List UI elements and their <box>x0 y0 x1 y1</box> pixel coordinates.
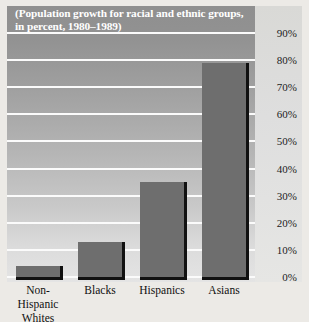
chart-title: (Population growth for racial and ethnic… <box>15 7 247 32</box>
plot-area: 0%10%20%30%40%50%60%70%80%90% (Populatio… <box>7 6 302 282</box>
bar <box>202 63 249 277</box>
y-tick-label: 60% <box>277 108 297 120</box>
title-band: (Population growth for racial and ethnic… <box>7 6 302 33</box>
x-category-label: Non-Hispanic Whites <box>7 283 69 322</box>
y-tick-label: 80% <box>277 54 297 66</box>
chart-figure: 0%10%20%30%40%50%60%70%80%90% (Populatio… <box>0 0 309 322</box>
y-tick-label: 50% <box>277 135 297 147</box>
bar <box>140 182 187 277</box>
x-category-label: Hispanics <box>131 283 193 297</box>
y-tick-label: 20% <box>277 217 297 229</box>
x-category-label: Blacks <box>69 283 131 297</box>
bar <box>78 242 125 277</box>
y-tick-label: 30% <box>277 190 297 202</box>
y-tick-label: 40% <box>277 163 297 175</box>
bar <box>16 266 63 277</box>
y-tick-label: 10% <box>277 244 297 256</box>
bar-series <box>7 6 255 282</box>
x-category-label: Asians <box>193 283 255 297</box>
y-tick-label: 70% <box>277 81 297 93</box>
x-axis-category-labels: Non-Hispanic WhitesBlacksHispanicsAsians <box>7 282 302 318</box>
